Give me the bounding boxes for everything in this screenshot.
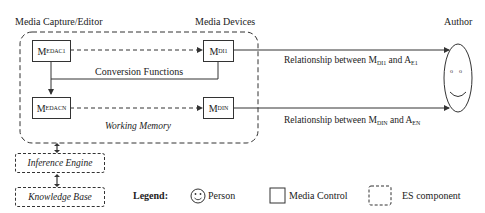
legend-es-component-icon bbox=[369, 186, 391, 205]
inference-engine-box[interactable]: Inference Engine bbox=[15, 153, 105, 173]
svg-text:o: o bbox=[450, 68, 453, 74]
node-m-din[interactable]: MDIN bbox=[203, 97, 234, 119]
working-memory-label: Working Memory bbox=[105, 122, 171, 132]
relationship-label-2: Relationship between MDIN and AEN bbox=[284, 116, 420, 126]
legend-person-label: Person bbox=[208, 191, 235, 201]
legend-es-component-label: ES component bbox=[402, 191, 461, 201]
diagram-connectors: o o bbox=[0, 0, 485, 213]
node-m-di1[interactable]: MDI1 bbox=[203, 40, 234, 62]
node-m-edacn[interactable]: MEDACN bbox=[32, 97, 71, 119]
legend-person-icon bbox=[191, 189, 205, 203]
header-author: Author bbox=[444, 17, 472, 27]
legend-media-control-label: Media Control bbox=[289, 191, 348, 201]
legend-title: Legend: bbox=[133, 191, 168, 201]
relationship-label-1: Relationship between MDI1 and AE1 bbox=[284, 56, 418, 66]
header-media-devices: Media Devices bbox=[195, 17, 255, 27]
node-m-edac1[interactable]: MEDAC1 bbox=[32, 40, 71, 62]
svg-text:o: o bbox=[459, 68, 462, 74]
legend-media-control-icon bbox=[270, 188, 285, 203]
conversion-functions-label: Conversion Functions bbox=[95, 67, 183, 77]
header-media-capture-editor: Media Capture/Editor bbox=[15, 17, 102, 27]
knowledge-base-box[interactable]: Knowledge Base bbox=[15, 187, 105, 207]
author-face-icon: o o bbox=[444, 44, 472, 112]
